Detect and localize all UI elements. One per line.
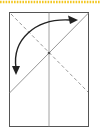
fold-diagram-svg xyxy=(0,0,100,132)
center-point xyxy=(48,52,51,55)
origami-diagram xyxy=(0,0,100,132)
